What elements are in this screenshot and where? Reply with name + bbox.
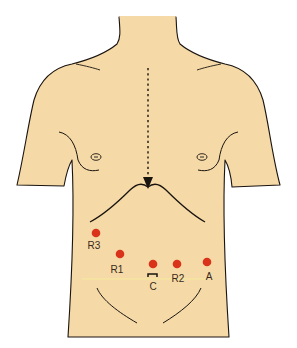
port-dot <box>173 260 182 269</box>
port-label: A <box>206 271 213 282</box>
port-label: R1 <box>111 264 124 275</box>
port-dot <box>203 258 212 267</box>
port-label: C <box>149 281 156 292</box>
port-dot <box>92 229 101 238</box>
torso-diagram: R3 R1 C R2 A <box>0 0 297 348</box>
port-dot <box>149 260 158 269</box>
port-label: R3 <box>88 240 101 251</box>
port-dot <box>116 250 125 259</box>
port-label: R2 <box>172 273 185 284</box>
